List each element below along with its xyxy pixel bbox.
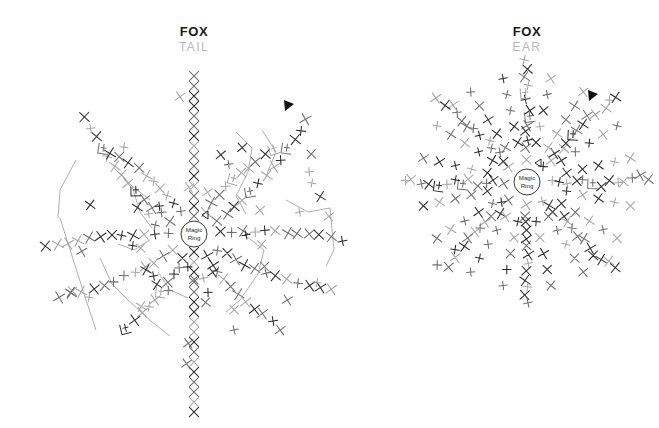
- stitch-symbol-plus: [474, 253, 484, 263]
- stitch-symbol-x: [467, 190, 476, 199]
- stitch-symbol-plus: [293, 278, 303, 288]
- stitch-symbol-x: [324, 212, 333, 221]
- stitch-symbol-plus: [450, 175, 460, 185]
- stitch-symbol-plus: [486, 143, 496, 153]
- stitch-symbol-plus: [442, 180, 451, 189]
- stitch-symbol-plus: [198, 273, 208, 283]
- stitch-symbol-x: [189, 367, 198, 376]
- stitch-symbol-x: [521, 199, 531, 209]
- stitch-symbol-x: [229, 202, 239, 212]
- stitch-symbol-x: [440, 101, 450, 111]
- stitch-symbol-x: [444, 262, 453, 271]
- stitch-symbol-plus: [305, 167, 314, 176]
- stitch-symbol-x: [226, 282, 236, 292]
- stitch-symbol-x: [150, 295, 160, 305]
- stitch-symbol-plus: [487, 198, 497, 208]
- stitch-symbol-x: [141, 170, 152, 181]
- stitch-symbol-plus: [296, 126, 306, 136]
- stitch-symbol-x: [520, 290, 529, 299]
- stitch-symbol-x: [419, 202, 428, 211]
- stitch-symbol-x: [605, 176, 615, 186]
- stitch-symbol-plus: [552, 225, 562, 235]
- stitch-symbol-x: [314, 230, 323, 239]
- stitch-symbol-bracket: [155, 287, 166, 298]
- stitch-symbol-x: [54, 292, 65, 303]
- stitch-symbol-bracket: [588, 179, 598, 189]
- pattern-page: FOX TAIL: [0, 0, 659, 428]
- stitch-symbol-x: [282, 295, 292, 305]
- stitch-symbol-x: [189, 161, 198, 170]
- stitch-symbol-plus: [567, 223, 577, 233]
- stitch-symbol-x: [326, 284, 337, 295]
- stitch-symbol-x: [189, 387, 198, 396]
- stitch-symbol-x: [520, 275, 530, 285]
- stitch-symbol-x: [80, 112, 90, 122]
- stitch-symbol-x: [463, 174, 473, 184]
- stitch-symbol-x: [95, 231, 106, 242]
- stitch-symbol-plus: [295, 207, 305, 217]
- stitch-symbol-x: [203, 187, 213, 197]
- stitch-symbol-x: [300, 114, 311, 125]
- stitch-symbol-plus: [519, 55, 529, 65]
- stitch-symbol-x: [546, 281, 555, 290]
- stitch-symbol-x: [538, 248, 548, 258]
- stitch-symbol-x: [189, 151, 198, 160]
- stitch-symbol-plus: [85, 123, 95, 133]
- stitch-symbol-x: [510, 233, 519, 242]
- stitch-symbol-x: [189, 407, 198, 416]
- stitch-symbol-plus: [613, 178, 623, 188]
- stitch-symbol-bracket: [520, 88, 531, 99]
- stitch-symbol-x: [499, 178, 509, 188]
- stitch-symbol-x: [475, 101, 484, 110]
- stitch-symbol-plus: [506, 106, 516, 116]
- stitch-symbol-x: [552, 129, 562, 139]
- stitch-symbol-x: [270, 271, 280, 281]
- stitch-symbol-plus: [483, 240, 492, 249]
- stitch-symbol-x: [487, 212, 496, 221]
- stitch-symbol-x: [201, 250, 212, 261]
- stitch-symbol-plus: [466, 88, 475, 97]
- stitch-symbol-plus: [460, 216, 470, 226]
- stitch-symbol-x: [292, 228, 302, 238]
- start-arrow-icon: [588, 90, 598, 101]
- stitch-symbol-plus: [168, 198, 179, 209]
- stitch-symbol-plus: [561, 239, 571, 249]
- stitch-symbol-x: [222, 248, 232, 258]
- stitch-symbol-plus: [252, 178, 263, 189]
- stitch-symbol-x: [578, 190, 588, 200]
- stitch-symbol-x: [557, 199, 566, 208]
- stitch-symbol-x: [510, 122, 519, 131]
- chart-panel-fox-ear: FOX EAR Magic Ring: [380, 0, 659, 428]
- stitch-symbol-x: [487, 155, 497, 165]
- stitch-symbol-x: [189, 357, 198, 366]
- stitch-symbol-x: [446, 129, 456, 139]
- stitch-symbol-x: [483, 168, 492, 177]
- stitch-symbol-x: [578, 119, 588, 129]
- stitch-symbol-x: [282, 227, 293, 238]
- stitch-symbol-x: [189, 171, 198, 180]
- stitch-symbol-x: [626, 202, 634, 210]
- stitch-symbol-x: [432, 233, 442, 243]
- stitch-symbol-x: [522, 241, 531, 250]
- stitch-symbol-x: [123, 158, 133, 168]
- stitch-symbol-x: [230, 254, 241, 265]
- stitch-symbol-x: [262, 170, 273, 181]
- stitch-symbol-bracket: [568, 130, 578, 140]
- stitch-symbol-x: [270, 226, 280, 236]
- stitch-symbol-x: [590, 110, 600, 120]
- stitch-symbol-x: [178, 253, 187, 262]
- stitch-symbol-x: [189, 131, 198, 140]
- stitch-symbol-plus: [250, 227, 259, 236]
- stitch-symbol-plus: [184, 263, 192, 271]
- stitch-symbol-x: [134, 163, 144, 173]
- stitch-symbol-x: [215, 190, 224, 199]
- stitch-symbol-x: [532, 138, 541, 147]
- stitch-symbol-plus: [102, 151, 113, 162]
- stitch-symbol-plus: [261, 268, 272, 279]
- stitch-symbol-plus: [169, 269, 178, 278]
- stitch-symbol-plus: [522, 135, 533, 146]
- stitch-symbol-x: [451, 194, 460, 203]
- stitch-symbol-x: [89, 284, 99, 294]
- stitch-symbol-x: [290, 134, 300, 144]
- magic-ring-label-line2: Ring: [188, 234, 201, 241]
